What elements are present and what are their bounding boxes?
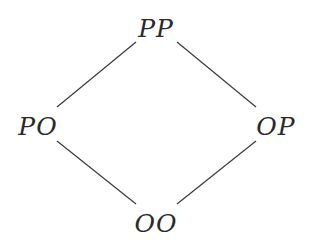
- node-oo: OO: [135, 211, 178, 236]
- edge-pp-op: [177, 42, 256, 107]
- lattice-diagram: PP PO OP OO: [0, 0, 310, 243]
- edge-op-oo: [177, 141, 256, 204]
- node-op: OP: [256, 114, 295, 139]
- edge-po-oo: [57, 141, 136, 204]
- edge-pp-po: [57, 42, 136, 107]
- node-pp: PP: [138, 16, 174, 41]
- node-po: PO: [18, 114, 57, 139]
